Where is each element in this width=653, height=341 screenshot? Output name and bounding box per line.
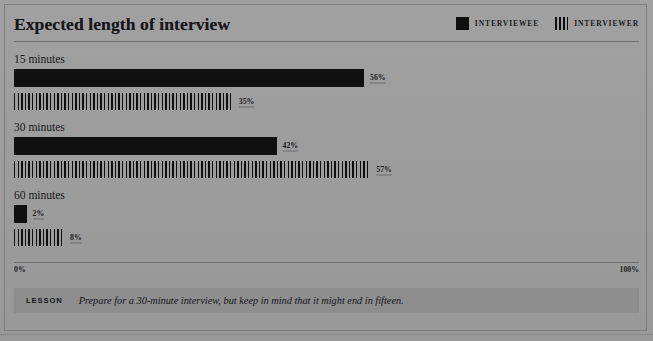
legend-item-interviewee: INTERVIEWEE (456, 17, 539, 30)
legend-label-interviewee: INTERVIEWEE (475, 19, 539, 28)
chart-legend: INTERVIEWEE INTERVIEWER (456, 17, 639, 30)
bar-row-interviewee: 2% (14, 205, 639, 223)
page-title: Expected length of interview (14, 14, 230, 35)
bar-row-interviewer: 8% (14, 229, 639, 246)
bar-interviewee (14, 137, 277, 155)
bar-interviewer (14, 93, 233, 110)
axis-tick-label-min: 0% (14, 265, 26, 274)
striped-square-icon (555, 17, 568, 30)
bar-value-interviewee: 2% (33, 209, 45, 220)
x-axis: 0% 100% (14, 262, 639, 280)
header-divider (14, 41, 639, 42)
bar-interviewer (14, 161, 370, 178)
bar-row-interviewee: 42% (14, 137, 639, 155)
bar-value-interviewee: 42% (283, 141, 299, 152)
plot-area: 15 minutes 56% 35% 30 minutes 42% 57% 60… (14, 52, 639, 264)
lesson-callout: LESSON Prepare for a 30-minute interview… (14, 288, 639, 313)
chart-header: Expected length of interview INTERVIEWEE… (14, 14, 639, 44)
axis-line (14, 262, 639, 263)
bar-row-interviewer: 35% (14, 93, 639, 110)
bar-group-label: 30 minutes (14, 120, 639, 134)
legend-label-interviewer: INTERVIEWER (574, 19, 639, 28)
bar-interviewee (14, 69, 364, 87)
bar-group-60-minutes: 60 minutes 2% 8% (14, 188, 639, 246)
bar-row-interviewee: 56% (14, 69, 639, 87)
bar-value-interviewer: 8% (70, 232, 82, 243)
bar-interviewee (14, 205, 27, 223)
bar-value-interviewee: 56% (370, 73, 386, 84)
legend-item-interviewer: INTERVIEWER (555, 17, 639, 30)
bar-interviewer (14, 229, 64, 246)
bar-group-label: 60 minutes (14, 188, 639, 202)
bar-group-15-minutes: 15 minutes 56% 35% (14, 52, 639, 110)
bar-value-interviewer: 57% (376, 164, 392, 175)
bottom-divider (0, 334, 653, 335)
bar-row-interviewer: 57% (14, 161, 639, 178)
axis-tick-label-max: 100% (620, 265, 640, 274)
solid-square-icon (456, 17, 469, 30)
lesson-tag: LESSON (26, 296, 63, 305)
bar-value-interviewer: 35% (239, 96, 255, 107)
bar-group-30-minutes: 30 minutes 42% 57% (14, 120, 639, 178)
lesson-text: Prepare for a 30-minute interview, but k… (79, 295, 404, 306)
bar-group-label: 15 minutes (14, 52, 639, 66)
